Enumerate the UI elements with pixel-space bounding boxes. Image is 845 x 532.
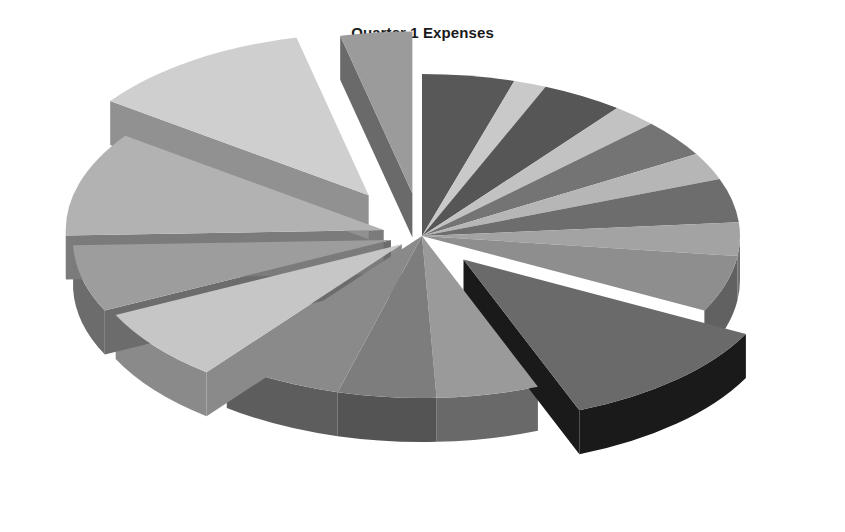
pie-chart-canvas xyxy=(0,0,845,532)
pie-slice-side xyxy=(338,392,437,442)
pie-chart-figure: Quarter 1 Expenses xyxy=(0,0,845,532)
